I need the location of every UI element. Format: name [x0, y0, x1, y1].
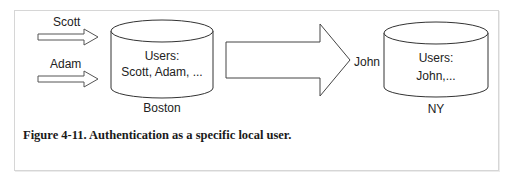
boston-site-label: Boston [143, 101, 180, 115]
big-arrow-icon [226, 24, 350, 96]
boston-db-title: Users: [145, 49, 180, 63]
figure-caption: Figure 4-11. Authentication as a specifi… [23, 128, 291, 143]
mapped-user-john: John [354, 55, 380, 69]
ny-db-title: Users: [419, 51, 454, 65]
incoming-user-adam: Adam [50, 57, 81, 71]
scott-arrow-icon [38, 29, 98, 45]
ny-db-users: John,... [416, 69, 455, 83]
incoming-user-scott: Scott [53, 15, 80, 29]
boston-db-users: Scott, Adam, ... [121, 65, 202, 79]
adam-arrow-icon [38, 71, 98, 87]
ny-site-label: NY [428, 102, 445, 116]
